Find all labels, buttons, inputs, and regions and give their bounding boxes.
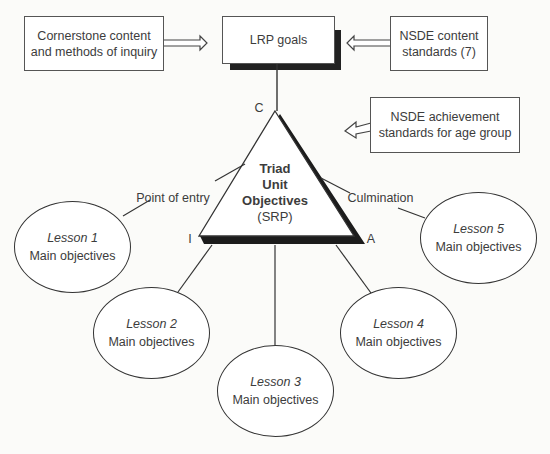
lesson4-line — [336, 245, 371, 293]
lesson-2-subtitle: Main objectives — [108, 333, 194, 351]
triad-title: Triad Unit Objectives (SRP) — [225, 161, 325, 225]
lesson-2-title: Lesson 2 — [126, 315, 177, 333]
point-of-entry-label: Point of entry — [128, 190, 218, 206]
arrow-left-icon — [345, 122, 371, 138]
lesson-3-subtitle: Main objectives — [232, 391, 318, 409]
culmination-label: Culmination — [343, 190, 418, 206]
nsde-content-line2: standards (7) — [402, 44, 476, 60]
nsde-achievement-box: NSDE achievement standards for age group — [370, 97, 520, 153]
lesson-5-subtitle: Main objectives — [435, 238, 521, 256]
cornerstone-box: Cornerstone content and methods of inqui… — [24, 16, 164, 71]
lesson-2-ellipse: Lesson 2 Main objectives — [93, 287, 210, 379]
lesson-3-title: Lesson 3 — [250, 373, 301, 391]
culmination-line-lower — [398, 208, 425, 218]
vertex-c-label: C — [252, 100, 266, 116]
nsde-achievement-line1: NSDE achievement — [390, 109, 499, 125]
lesson-4-ellipse: Lesson 4 Main objectives — [340, 287, 457, 379]
nsde-content-line1: NSDE content — [399, 28, 478, 44]
lesson-1-ellipse: Lesson 1 Main objectives — [14, 201, 131, 293]
lesson-1-subtitle: Main objectives — [29, 247, 115, 265]
lesson-3-ellipse: Lesson 3 Main objectives — [217, 345, 334, 437]
cornerstone-line2: and methods of inquiry — [31, 44, 157, 60]
triad-line4: (SRP) — [257, 209, 292, 224]
arrow-right-icon — [163, 36, 207, 50]
lesson-4-subtitle: Main objectives — [355, 333, 441, 351]
lesson-1-title: Lesson 1 — [47, 229, 98, 247]
triad-line2: Unit — [225, 177, 325, 193]
vertex-i-label: I — [184, 231, 196, 247]
triad-line1: Triad — [225, 161, 325, 177]
lesson-5-ellipse: Lesson 5 Main objectives — [420, 192, 537, 284]
nsde-achievement-line2: standards for age group — [379, 125, 512, 141]
vertex-a-label: A — [364, 231, 378, 247]
cornerstone-line1: Cornerstone content — [37, 28, 150, 44]
lesson2-line — [178, 245, 212, 292]
arrow-left-icon — [347, 36, 390, 50]
lrp-goals-label: LRP goals — [250, 32, 307, 48]
lesson-5-title: Lesson 5 — [453, 220, 504, 238]
triad-line3: Objectives — [225, 193, 325, 209]
nsde-content-box: NSDE content standards (7) — [390, 16, 488, 71]
lesson-4-title: Lesson 4 — [373, 315, 424, 333]
lrp-goals-box: LRP goals — [222, 16, 335, 64]
